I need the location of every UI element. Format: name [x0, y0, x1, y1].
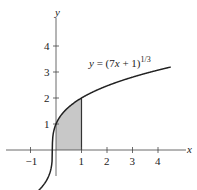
plot-area: xy−112341234y = (7x + 1)1/3 — [0, 0, 197, 190]
y-tick-label: 1 — [44, 118, 50, 130]
x-axis-label: x — [186, 143, 192, 155]
y-tick-label: 3 — [44, 66, 50, 78]
equation-label: y = (7x + 1)1/3 — [88, 55, 151, 70]
chart: xy−112341234y = (7x + 1)1/3 — [0, 0, 197, 190]
x-tick-label: 2 — [104, 155, 110, 167]
x-tick-label: −1 — [26, 155, 38, 167]
x-tick-label: 4 — [155, 155, 161, 167]
y-tick-label: 2 — [44, 92, 50, 104]
x-tick-label: 3 — [130, 155, 136, 167]
shaded-region — [56, 98, 82, 150]
y-axis-label: y — [54, 6, 60, 18]
x-tick-label: 1 — [79, 155, 85, 167]
y-tick-label: 4 — [44, 40, 50, 52]
